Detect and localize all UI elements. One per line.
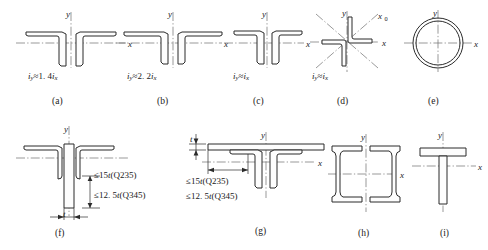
angle-left-f [24,146,62,179]
angle-right-c [272,31,302,64]
y-axis-label-i: y [437,130,442,140]
x-axis-label-d: x [381,38,386,48]
panel-b: x y [114,8,234,70]
caption-g: (g) [255,226,266,236]
ratio-label-c: iy≈ix [233,71,249,81]
x-axis-label-h: x [399,170,404,180]
y-axis-label-g: y [260,130,265,140]
y-axis-label-d: y [341,8,346,18]
angle-left-a [26,32,66,66]
x-axis-label-e: x [473,39,478,49]
angle-right-b [178,32,222,64]
dim-arrow-up-f [88,176,93,181]
angle-upper-right-d [348,17,372,43]
angle-left-b [124,32,168,64]
caption-f: (f) [55,228,65,238]
caption-e: (e) [428,96,439,106]
angle-lower-left-d [322,40,346,66]
y-axis-label-e: y [432,8,437,18]
ratio-label-a: iy≈1. 4ix [28,71,58,81]
caption-a: (a) [52,96,63,106]
x-axis-label-i: x [477,162,482,172]
cover-plate-g [208,144,324,150]
x0-axis-label-d: x [377,11,382,21]
limit-q235-f: ≤15t(Q235) [94,170,136,180]
angle-left-g [230,150,262,188]
y-axis-label-c: y [261,9,266,19]
y-axis-label-h: y [360,132,365,142]
limit-q345-g: ≤12. 5t(Q345) [186,191,237,201]
panel-h: x y [326,130,412,216]
caption-c: (c) [253,96,264,106]
caption-h: (h) [358,228,369,238]
panel-c: x y [222,8,318,70]
figure-sheet: x y iy≈1. 4ix (a) x y iy≈2. 2ix (b) x [0,0,488,250]
flange-plate-i [420,148,466,156]
angle-right-a [76,32,116,66]
limit-q345-f: ≤12. 5t(Q345) [94,190,145,200]
angle-left-c [234,31,264,64]
panel-d: x y x 0 [306,6,398,74]
web-plate-f [64,144,74,208]
dim-arrow-down-g [194,150,199,156]
panel-g: x y [186,126,342,216]
dim-arrow-up-g [194,139,199,145]
thickness-label-f: t [63,209,66,219]
x-axis-label-g: x [317,158,322,168]
y-axis-label-b: y [167,9,172,19]
y-axis-label-f: y [63,124,68,134]
y-axis-label-a: y [65,9,70,19]
dim-arrow-left-g [208,168,214,172]
dim-arrow-right-f [74,215,80,219]
dim-arrow-right-g [242,168,248,172]
panel-e: x y [400,6,484,74]
limit-q235-g: ≤15t(Q235) [186,176,228,186]
caption-b: (b) [157,96,168,106]
panel-i: x y [410,128,488,216]
ratio-label-d: iy≈ix [312,71,328,81]
web-plate-i [439,156,447,204]
dim-arrow-down-f [88,203,93,208]
ratio-label-b: iy≈2. 2ix [127,71,157,81]
x0-axis-sub-d: 0 [385,15,388,22]
thickness-label-g: t [190,134,193,144]
caption-d: (d) [337,96,348,106]
angle-right-g [270,150,302,188]
caption-i: (i) [440,228,449,238]
